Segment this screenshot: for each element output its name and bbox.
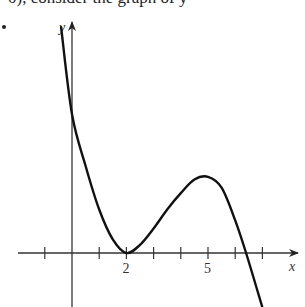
function-curve xyxy=(61,27,262,307)
function-graph: 2 5 x y xyxy=(0,0,305,307)
x-tick-label-5: 5 xyxy=(204,261,211,276)
x-tick-label-2: 2 xyxy=(122,261,129,276)
x-axis-label: x xyxy=(288,259,296,274)
